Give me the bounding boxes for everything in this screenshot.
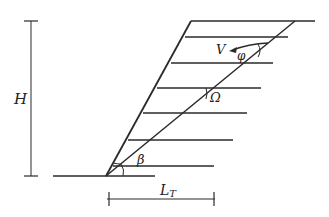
height-dimension: H: [13, 21, 38, 176]
length-label: LT: [159, 182, 177, 199]
omega-label: Ω: [209, 90, 221, 105]
sliding-plane: [106, 21, 295, 176]
face-angle-arc: [113, 163, 120, 164]
height-label: H: [13, 90, 28, 108]
layer-lines: [113, 37, 288, 166]
velocity-label: V: [216, 42, 227, 57]
beta-label: β: [136, 152, 145, 167]
phi-label: φ: [237, 49, 246, 63]
slope-diagram: H V φ Ω β LT: [0, 0, 329, 217]
slope-face: [106, 21, 191, 176]
length-dimension: LT: [107, 182, 215, 206]
